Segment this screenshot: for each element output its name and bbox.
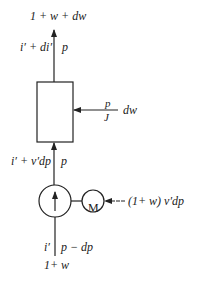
- motor-label: M: [88, 202, 99, 214]
- motor-input-label: (1+ w) v′dp: [128, 195, 184, 207]
- box-input-numerator: p: [105, 98, 111, 109]
- mid-left-label: i′ + v′dp: [11, 155, 51, 167]
- box-input-denominator: J: [104, 112, 109, 123]
- top-right-label: p: [62, 41, 68, 53]
- process-box: [37, 82, 73, 142]
- bottom-right-label: p − dp: [61, 241, 93, 253]
- top-left-label: i′ + di′: [20, 41, 52, 53]
- bottom-flow-label: 1+ w: [44, 259, 69, 271]
- mid-right-label: p: [61, 155, 67, 167]
- bottom-left-label: i′: [44, 241, 50, 253]
- top-flow-label: 1 + w + dw: [30, 10, 86, 22]
- box-input-label: dw: [123, 104, 137, 116]
